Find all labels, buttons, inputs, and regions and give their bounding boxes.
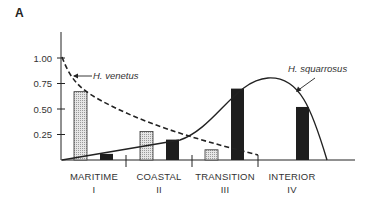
arrowhead-icon [73,74,78,79]
bar-h-squarrosus [296,107,309,160]
category-label: TRANSITION [195,171,255,182]
category-label: MARITIME [70,171,118,182]
bar-h-venetus [205,150,218,160]
curve-h-squarrosus [62,78,327,160]
y-tick-label: 0.25 [34,129,53,140]
category-numeral: I [93,184,96,195]
y-tick-label: 0.75 [34,78,53,89]
y-tick-label: 1.00 [34,53,53,64]
bars [74,89,309,160]
category-numeral: III [221,184,230,195]
curve-h-venetus [62,57,258,155]
bar-h-venetus [74,92,87,160]
category-label: INTERIOR [269,171,316,182]
label-h-squarrosus: H. squarrosus [288,63,347,74]
bar-h-squarrosus [100,154,113,160]
y-tick-label: 0.50 [34,104,53,115]
bar-chart: 0.250.500.751.00 H. venetusH. squarrosus… [0,0,365,208]
category-numeral: II [156,184,162,195]
label-h-venetus: H. venetus [93,70,139,81]
category-numeral: IV [287,184,297,195]
category-label: COASTAL [136,171,181,182]
